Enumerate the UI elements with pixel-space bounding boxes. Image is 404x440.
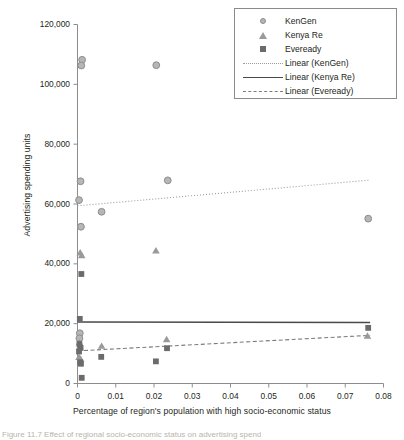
legend-item-kenya-re[interactable]: Kenya Re — [235, 28, 396, 42]
data-point-circle — [76, 197, 83, 204]
data-point-circle — [77, 178, 84, 185]
y-tick-label: 100,000 — [10, 79, 70, 89]
trendline-dotted — [78, 180, 371, 206]
data-point-square — [98, 354, 104, 360]
x-tick-label: 0.08 — [364, 391, 404, 401]
legend-item-linear-eveready[interactable]: Linear (Eveready) — [235, 84, 396, 98]
solid-line-icon — [241, 70, 285, 84]
x-tick-label: 0.05 — [249, 391, 289, 401]
y-tick-label: 20,000 — [10, 318, 70, 328]
dashed-line-icon — [241, 84, 285, 98]
data-point-square — [79, 375, 85, 381]
triangle-marker-icon — [241, 28, 285, 42]
data-point-square — [78, 361, 84, 367]
data-point-square — [164, 345, 170, 351]
legend-item-eveready[interactable]: Eveready — [235, 42, 396, 56]
data-point-triangle — [163, 336, 171, 342]
data-point-circle — [153, 62, 160, 69]
legend-item-linear-kengen[interactable]: Linear (KenGen) — [235, 56, 396, 70]
data-point-circle — [78, 62, 85, 69]
y-tick-label: 60,000 — [10, 199, 70, 209]
x-tick-label: 0.04 — [211, 391, 251, 401]
legend-label: Linear (Eveready) — [285, 86, 353, 96]
x-tick-label: 0.02 — [134, 391, 174, 401]
trendline-layer — [78, 180, 371, 351]
y-tick-label: 0 — [10, 378, 70, 388]
y-tick-label: 80,000 — [10, 139, 70, 149]
circle-marker-icon — [241, 14, 285, 28]
data-point-triangle — [98, 342, 106, 348]
x-tick-label: 0.03 — [172, 391, 212, 401]
legend-label: KenGen — [285, 16, 317, 26]
legend-label: Eveready — [285, 44, 321, 54]
y-tick-label: 120,000 — [10, 19, 70, 29]
x-tick-label: 0.01 — [96, 391, 136, 401]
data-point-square — [153, 358, 159, 364]
data-point-circle — [78, 223, 85, 230]
x-tick-label: 0 — [58, 391, 98, 401]
legend-label: Linear (KenGen) — [285, 58, 349, 68]
legend-label: Linear (Kenya Re) — [285, 72, 355, 82]
y-axis-title: Advertising spending units — [22, 70, 32, 300]
data-point-circle — [365, 215, 372, 222]
chart-legend: KenGen Kenya Re Eveready Linear (KenGen)… — [234, 8, 397, 99]
x-tick-label: 0.06 — [287, 391, 327, 401]
data-point-triangle — [152, 247, 160, 253]
data-point-square — [365, 325, 371, 331]
data-point-square — [76, 349, 82, 355]
y-tick-label: 40,000 — [10, 258, 70, 268]
chart-figure: 020,00040,00060,00080,000100,000120,000 … — [0, 0, 404, 440]
x-tick-label: 0.07 — [325, 391, 365, 401]
legend-item-linear-kenya-re[interactable]: Linear (Kenya Re) — [235, 70, 396, 84]
data-point-circle — [164, 177, 171, 184]
data-point-circle — [98, 208, 105, 215]
x-axis-title: Percentage of region's population with h… — [0, 406, 404, 416]
trendline-dashed — [78, 335, 371, 351]
square-marker-icon — [241, 42, 285, 56]
dotted-line-icon — [241, 56, 285, 70]
legend-label: Kenya Re — [285, 30, 323, 40]
data-points-layer — [75, 56, 371, 380]
figure-caption: Figure 11.7 Effect of regional socio-eco… — [2, 430, 261, 440]
data-point-square — [78, 271, 84, 277]
legend-item-kengen[interactable]: KenGen — [235, 14, 396, 28]
data-point-square — [77, 316, 83, 322]
